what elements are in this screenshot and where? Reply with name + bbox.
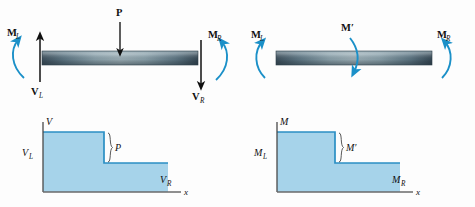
moment-jump-brace	[339, 133, 344, 162]
svg-text:R: R	[216, 35, 222, 43]
moment-arrow-ml	[13, 40, 24, 78]
panel-shear-diagram: V x V L V R P	[22, 116, 188, 197]
panel-moment-diagram: M x M L M R M′	[253, 116, 420, 197]
moment-arrow-mr	[216, 42, 227, 80]
beam-bar-right	[276, 51, 432, 65]
shear-jump-brace	[108, 133, 113, 162]
svg-text:V: V	[31, 86, 39, 97]
svg-text:L: L	[259, 35, 264, 43]
svg-text:V: V	[192, 91, 200, 102]
svg-text:R: R	[199, 97, 205, 105]
moment-label-ml: M L	[7, 27, 20, 41]
moment-y-axis-label: M	[279, 116, 289, 127]
figure-container: P V L M L V R M R	[0, 0, 475, 207]
svg-text:L: L	[262, 153, 267, 161]
svg-text:L: L	[38, 92, 43, 100]
beam-shear-moment-figure: P V L M L V R M R	[0, 0, 475, 207]
moment-arrow-mr-right-panel	[442, 42, 451, 78]
svg-text:M: M	[253, 147, 263, 158]
moment-label-mr-right-panel: M R	[437, 29, 451, 43]
applied-moment-label-mprime: M′	[341, 22, 354, 33]
svg-text:R: R	[166, 180, 172, 188]
moment-x-axis-label: x	[415, 187, 420, 197]
shear-jump-label: P	[114, 142, 121, 153]
svg-text:L: L	[28, 153, 33, 161]
svg-text:R: R	[445, 35, 451, 43]
moment-left-value-label: M L	[253, 147, 267, 161]
moment-arrow-ml-right-panel	[256, 42, 265, 78]
svg-text:R: R	[400, 180, 406, 188]
panel-top-right: M′ M L M R	[251, 22, 451, 78]
shear-label-vl: V L	[31, 86, 43, 100]
load-label-p: P	[116, 7, 123, 18]
shear-area-fill	[43, 132, 168, 192]
moment-area-fill	[277, 132, 400, 192]
svg-text:L: L	[15, 33, 20, 41]
shear-x-axis-label: x	[183, 187, 188, 197]
svg-text:M: M	[391, 174, 401, 185]
shear-y-axis-label: V	[46, 116, 54, 127]
moment-label-ml-right-panel: M L	[251, 29, 264, 43]
shear-left-value-label: V L	[22, 147, 33, 161]
panel-top-left: P V L M L V R M R	[7, 7, 227, 105]
moment-label-mr: M R	[208, 29, 222, 43]
moment-jump-label: M′	[345, 142, 357, 153]
shear-label-vr: V R	[192, 91, 205, 105]
beam-bar-left	[42, 51, 198, 65]
